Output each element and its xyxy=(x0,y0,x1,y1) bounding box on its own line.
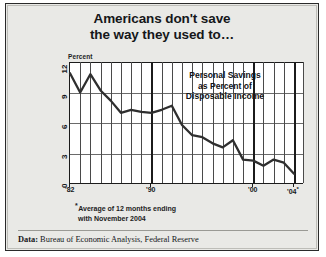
divider xyxy=(18,230,308,231)
source-text: Bureau of Economic Analysis, Federal Res… xyxy=(40,235,199,244)
footnote-line-2: with November 2004 xyxy=(75,214,265,223)
annotation-line-3: Disposable Income xyxy=(156,91,294,102)
x-label-2004: '04* xyxy=(287,186,299,195)
x-label-2000: '00 xyxy=(248,186,257,193)
y-tick-3: 3 xyxy=(60,155,69,169)
footnote: *Average of 12 months ending with Novemb… xyxy=(75,201,265,223)
source-credit: Data: Bureau of Economic Analysis, Feder… xyxy=(18,235,199,244)
footnote-line-1: Average of 12 months ending xyxy=(78,205,176,212)
chart-card: Americans don't save the way they used t… xyxy=(5,3,319,251)
x-label-1990: '90 xyxy=(146,186,155,193)
y-tick-6: 6 xyxy=(60,125,69,139)
y-tick-9: 9 xyxy=(60,95,69,109)
y-axis-title: Percent xyxy=(68,53,93,60)
page-title: Americans don't save the way they used t… xyxy=(6,11,318,42)
title-line-1: Americans don't save xyxy=(93,11,230,26)
annotation-line-2: as Percent of xyxy=(156,81,294,92)
source-label: Data: xyxy=(18,235,38,244)
y-tick-12: 12 xyxy=(60,65,69,79)
annotation-line-1: Personal Savings xyxy=(156,70,294,81)
x-label-2004-asterisk: * xyxy=(296,186,298,192)
title-line-2: the way they used to… xyxy=(6,27,318,43)
series-annotation: Personal Savings as Percent of Disposabl… xyxy=(156,70,294,102)
x-label-1982: '82 xyxy=(65,186,74,193)
